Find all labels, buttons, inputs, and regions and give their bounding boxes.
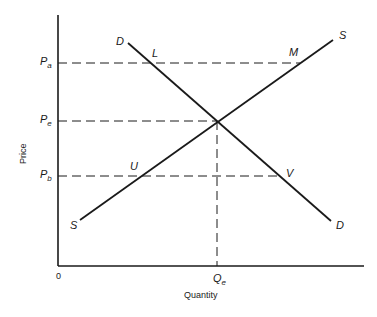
demand-start-label: D — [116, 36, 124, 47]
supply-curve — [80, 40, 333, 220]
point-label-m: M — [289, 47, 298, 58]
supply-end-label: S — [339, 30, 346, 41]
point-label-u: U — [130, 161, 138, 172]
y-axis-title: Price — [18, 143, 28, 164]
diagram-canvas — [0, 0, 377, 317]
price-label-pb: Pb — [40, 169, 52, 180]
demand-end-label: D — [336, 220, 344, 231]
supply-start-label: S — [70, 220, 77, 231]
point-label-v: V — [286, 168, 293, 179]
x-axis-title: Quantity — [184, 291, 218, 300]
quantity-label-qe: Qe — [213, 273, 226, 284]
point-label-l: L — [152, 48, 158, 59]
price-label-pe: Pe — [40, 114, 52, 125]
origin-label: 0 — [56, 272, 61, 281]
demand-curve — [128, 43, 331, 221]
price-label-pa: Pa — [40, 56, 52, 67]
